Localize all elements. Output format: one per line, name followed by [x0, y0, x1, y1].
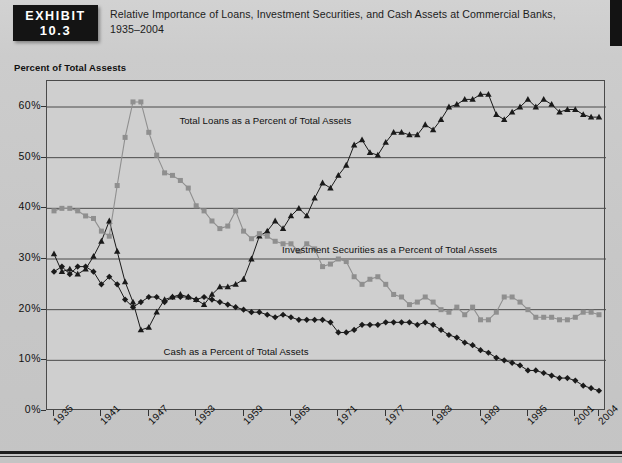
data-point-marker [541, 370, 547, 376]
data-point-marker [423, 295, 428, 300]
data-point-marker [573, 315, 578, 320]
data-point-marker [438, 327, 444, 333]
data-point-marker [352, 274, 357, 279]
data-point-marker [312, 317, 318, 323]
data-point-marker [360, 282, 365, 287]
data-point-marker [241, 229, 246, 234]
data-point-marker [296, 317, 302, 323]
series-line [54, 94, 599, 330]
exhibit-title: Relative Importance of Loans, Investment… [110, 7, 590, 36]
data-point-marker [359, 137, 365, 143]
data-point-marker [265, 234, 270, 239]
data-point-marker [67, 266, 73, 272]
data-point-marker [130, 99, 135, 104]
series-loans [51, 91, 602, 332]
data-point-marker [225, 224, 230, 229]
data-point-marker [478, 317, 483, 322]
data-point-marker [510, 295, 515, 300]
data-point-marker [272, 218, 278, 224]
series-line [54, 102, 599, 320]
exhibit-badge-line1: EXHIBIT [25, 9, 86, 23]
data-point-marker [588, 385, 594, 391]
data-point-marker [98, 238, 104, 244]
data-point-marker [565, 317, 570, 322]
data-point-marker [438, 116, 444, 122]
y-tick-mark-40 [41, 207, 46, 208]
exhibit-title-line2: 1935–2004 [110, 22, 590, 37]
y-tick-label-20: 20% [1, 302, 41, 314]
data-point-marker [280, 312, 286, 318]
data-point-marker [596, 388, 602, 394]
data-point-marker [327, 185, 333, 191]
data-point-marker [67, 206, 72, 211]
y-tick-mark-10 [41, 359, 46, 360]
data-point-marker [549, 372, 555, 378]
y-tick-label-60: 60% [1, 99, 41, 111]
data-point-marker [430, 322, 436, 328]
data-point-marker [146, 324, 152, 330]
data-point-marker [178, 178, 183, 183]
data-point-marker [249, 236, 254, 241]
data-point-marker [138, 299, 144, 305]
y-tick-label-40: 40% [1, 200, 41, 212]
data-point-marker [470, 342, 476, 348]
data-point-marker [431, 300, 436, 305]
data-point-marker [328, 262, 333, 267]
data-point-marker [273, 239, 278, 244]
data-point-marker [201, 294, 207, 300]
data-point-marker [367, 149, 373, 155]
series-line [54, 267, 599, 391]
data-point-marker [91, 216, 96, 221]
data-point-marker [257, 231, 262, 236]
y-tick-label-50: 50% [1, 150, 41, 162]
data-point-marker [399, 295, 404, 300]
data-point-marker [407, 302, 412, 307]
y-tick-label-10: 10% [1, 352, 41, 364]
data-point-marker [217, 226, 222, 231]
data-point-marker [359, 322, 365, 328]
data-point-marker [446, 332, 452, 338]
data-point-marker [311, 195, 317, 201]
data-point-marker [154, 153, 159, 158]
data-point-marker [240, 307, 246, 313]
corner-accent-bar [610, 0, 622, 46]
data-point-marker [170, 173, 175, 178]
data-point-marker [51, 251, 57, 257]
data-point-marker [367, 277, 372, 282]
data-point-marker [549, 315, 554, 320]
data-point-marker [406, 319, 412, 325]
data-point-marker [564, 375, 570, 381]
data-point-marker [375, 274, 380, 279]
data-point-marker [202, 208, 207, 213]
data-point-marker [517, 362, 523, 368]
data-point-marker [557, 317, 562, 322]
data-point-marker [83, 213, 88, 218]
y-tick-mark-30 [41, 258, 46, 259]
data-point-marker [232, 281, 238, 287]
data-point-marker [51, 269, 57, 275]
data-point-marker [525, 367, 531, 373]
data-point-marker [75, 208, 80, 213]
data-point-marker [383, 319, 389, 325]
data-point-marker [589, 310, 594, 315]
data-point-marker [146, 294, 152, 300]
data-point-marker [320, 264, 325, 269]
data-point-marker [391, 292, 396, 297]
data-point-marker [580, 383, 586, 389]
data-point-marker [541, 315, 546, 320]
data-point-marker [336, 257, 341, 262]
data-point-marker [556, 375, 562, 381]
data-point-marker [122, 278, 128, 284]
exhibit-header: EXHIBIT 10.3 Relative Importance of Loan… [0, 0, 622, 52]
data-point-marker [541, 96, 547, 102]
data-point-marker [415, 300, 420, 305]
exhibit-badge: EXHIBIT 10.3 [13, 5, 98, 41]
data-point-marker [146, 130, 151, 135]
data-point-marker [272, 314, 278, 320]
data-point-marker [52, 208, 57, 213]
data-point-marker [581, 310, 586, 315]
y-axis-caption: Percent of Total Assests [14, 62, 126, 73]
data-point-marker [580, 111, 586, 117]
data-point-marker [240, 276, 246, 282]
data-point-marker [130, 299, 136, 305]
